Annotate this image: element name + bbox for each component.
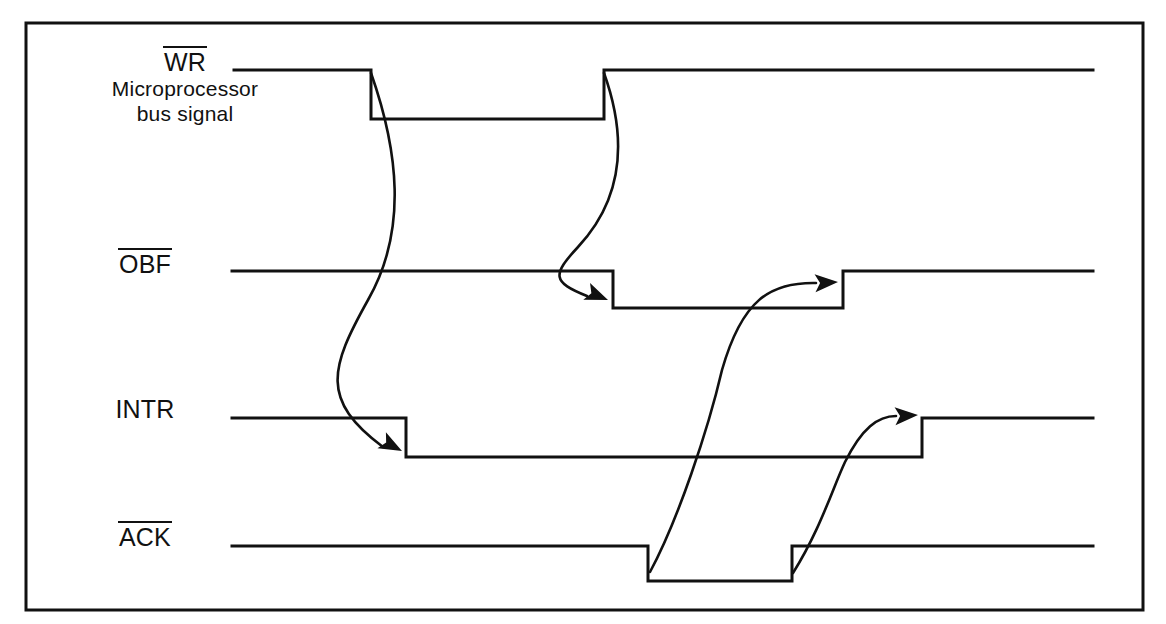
waveform-ack xyxy=(232,546,1093,581)
arrow-head-ack-rise-to-intr-rise xyxy=(895,406,919,425)
waveform-intr xyxy=(232,418,1093,457)
arrow-head-ack-fall-to-obf-rise xyxy=(815,273,839,292)
signal-label-obf: OBF xyxy=(60,248,230,278)
signal-name-wr: WR xyxy=(163,46,207,76)
waveform-group xyxy=(232,70,1093,581)
causality-arrow-group xyxy=(338,73,919,573)
arrow-curve-ack-rise-to-intr-rise xyxy=(793,416,896,573)
waveform-obf xyxy=(232,271,1093,308)
signal-name-ack: ACK xyxy=(118,521,172,551)
signal-label-ack: ACK xyxy=(60,521,230,551)
signal-name-intr: INTR xyxy=(114,396,175,423)
arrow-curve-wr-fall-to-intr-fall xyxy=(338,73,395,447)
waveform-wr xyxy=(234,70,1093,119)
arrow-curve-ack-fall-to-obf-rise xyxy=(650,283,816,572)
arrow-curve-wr-rise-to-obf-fall xyxy=(560,73,618,296)
signal-sublabel-wr-line1: Microprocessor xyxy=(60,77,310,101)
signal-label-wr: WR Microprocessor bus signal xyxy=(60,46,310,126)
timing-diagram-figure: WR Microprocessor bus signal OBF INTR AC… xyxy=(0,0,1166,624)
signal-sublabel-wr-line2: bus signal xyxy=(60,102,310,126)
arrow-head-wr-fall-to-intr-fall xyxy=(377,432,406,459)
signal-name-obf: OBF xyxy=(118,248,172,278)
signal-label-intr: INTR xyxy=(60,396,230,423)
